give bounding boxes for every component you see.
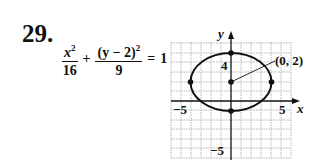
tick-label-x5: 5 [279, 102, 286, 117]
bottom-vertex-point [228, 108, 234, 114]
tick-label-x-neg5: −5 [173, 102, 187, 117]
ellipse-graph: y x 4 −5 5 −5 (0, 2) [0, 0, 325, 166]
y-axis-arrow-icon [228, 31, 234, 39]
tick-label-y-neg5: −5 [210, 143, 224, 158]
tick-label-y4: 4 [221, 58, 228, 73]
top-vertex-point [228, 50, 234, 56]
center-label: (0, 2) [275, 53, 303, 68]
left-vertex-point [188, 79, 194, 85]
center-point [228, 79, 234, 85]
right-vertex-point [269, 79, 275, 85]
x-axis-label: x [296, 101, 304, 116]
y-axis-label: y [216, 26, 224, 41]
